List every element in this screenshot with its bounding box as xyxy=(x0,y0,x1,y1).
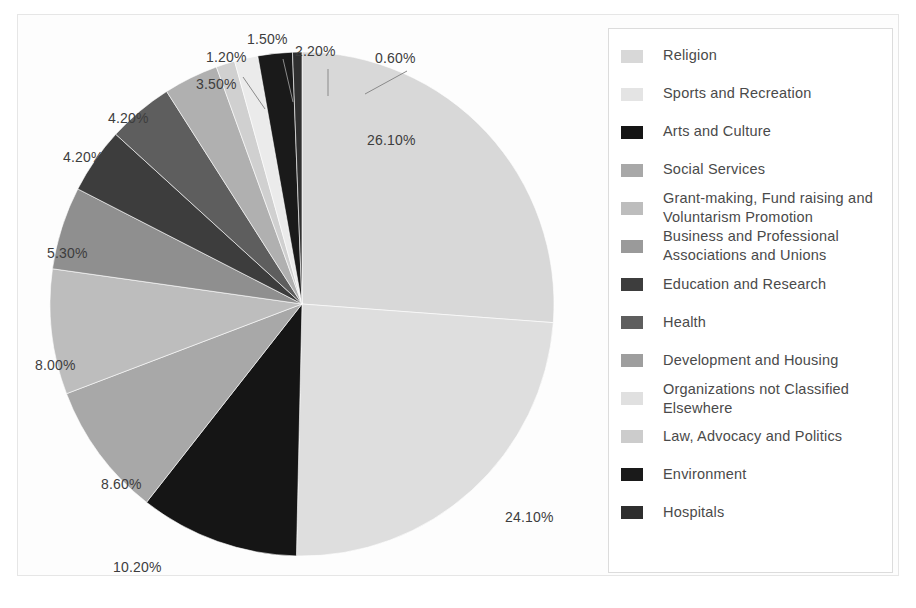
pie-value-label: 2.20% xyxy=(295,43,336,59)
pie-value-label: 0.60% xyxy=(375,50,416,66)
legend-item-label: Business and Professional Associations a… xyxy=(663,227,882,265)
legend-item[interactable]: Business and Professional Associations a… xyxy=(609,227,892,265)
legend-item[interactable]: Environment xyxy=(609,456,892,494)
legend-swatch-icon xyxy=(621,354,643,367)
legend-item-label: Education and Research xyxy=(663,275,826,294)
legend-item[interactable]: Law, Advocacy and Politics xyxy=(609,418,892,456)
legend-item-label: Social Services xyxy=(663,160,765,179)
chart-legend: ReligionSports and RecreationArts and Cu… xyxy=(608,28,893,573)
pie-value-label: 1.50% xyxy=(247,31,288,47)
pie-value-label: 5.30% xyxy=(47,245,88,261)
legend-item[interactable]: Development and Housing xyxy=(609,342,892,380)
legend-swatch-icon xyxy=(621,278,643,291)
pie-value-label: 8.60% xyxy=(101,476,142,492)
pie-value-label: 1.20% xyxy=(206,49,247,65)
legend-swatch-icon xyxy=(621,126,643,139)
legend-item-label: Grant-making, Fund raising and Voluntari… xyxy=(663,189,882,227)
pie-slice[interactable] xyxy=(302,52,554,323)
legend-swatch-icon xyxy=(621,50,643,63)
pie-value-label: 24.10% xyxy=(505,509,554,525)
legend-item-label: Development and Housing xyxy=(663,351,839,370)
legend-item-label: Arts and Culture xyxy=(663,122,771,141)
legend-item-label: Religion xyxy=(663,46,717,65)
legend-swatch-icon xyxy=(621,506,643,519)
pie-value-label: 26.10% xyxy=(367,132,416,148)
legend-item[interactable]: Social Services xyxy=(609,151,892,189)
legend-swatch-icon xyxy=(621,164,643,177)
legend-item-label: Sports and Recreation xyxy=(663,84,811,103)
legend-item-label: Law, Advocacy and Politics xyxy=(663,427,842,446)
pie-value-label: 3.50% xyxy=(196,76,237,92)
legend-item[interactable]: Education and Research xyxy=(609,266,892,304)
pie-value-label: 4.20% xyxy=(108,110,149,126)
legend-item-label: Hospitals xyxy=(663,503,724,522)
pie-value-label: 10.20% xyxy=(113,559,162,575)
legend-swatch-icon xyxy=(621,316,643,329)
pie-value-label: 8.00% xyxy=(35,357,76,373)
legend-item[interactable]: Religion xyxy=(609,37,892,75)
legend-item[interactable]: Arts and Culture xyxy=(609,113,892,151)
legend-item-label: Environment xyxy=(663,465,747,484)
legend-swatch-icon xyxy=(621,202,643,215)
legend-item[interactable]: Health xyxy=(609,304,892,342)
legend-swatch-icon xyxy=(621,468,643,481)
legend-item-label: Organizations not Classified Elsewhere xyxy=(663,380,882,418)
legend-item[interactable]: Organizations not Classified Elsewhere xyxy=(609,380,892,418)
pie-value-label: 4.20% xyxy=(63,149,104,165)
legend-swatch-icon xyxy=(621,430,643,443)
legend-item[interactable]: Hospitals xyxy=(609,494,892,532)
legend-swatch-icon xyxy=(621,88,643,101)
pie-plot-area: 26.10%24.10%10.20%8.60%8.00%5.30%4.20%4.… xyxy=(17,14,587,576)
pie-chart-figure: 26.10%24.10%10.20%8.60%8.00%5.30%4.20%4.… xyxy=(0,0,916,608)
legend-item[interactable]: Grant-making, Fund raising and Voluntari… xyxy=(609,189,892,227)
legend-swatch-icon xyxy=(621,392,643,405)
legend-item[interactable]: Sports and Recreation xyxy=(609,75,892,113)
legend-swatch-icon xyxy=(621,240,643,253)
legend-item-label: Health xyxy=(663,313,706,332)
